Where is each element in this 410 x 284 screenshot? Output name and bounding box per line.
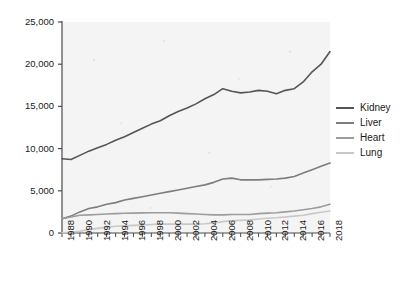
x-axis-tick-label: 2016: [316, 220, 326, 241]
legend-label: Kidney: [360, 103, 391, 113]
x-axis-tick-label: 2010: [263, 220, 273, 241]
legend-swatch-liver: [336, 122, 354, 124]
x-axis-tick-label: 1996: [137, 220, 147, 241]
x-axis-tick-label: 2000: [173, 220, 183, 241]
legend-label: Heart: [360, 133, 384, 143]
x-axis-tick-label: 2002: [191, 220, 201, 241]
legend-swatch-heart: [336, 137, 354, 139]
x-axis-tick-label: 1990: [84, 220, 94, 241]
legend-item-liver[interactable]: Liver: [336, 115, 391, 130]
y-axis-tick-label: 20,000: [2, 59, 54, 69]
legend-item-heart[interactable]: Heart: [336, 130, 391, 145]
legend-item-kidney[interactable]: Kidney: [336, 100, 391, 115]
y-axis-tick-label: 25,000: [2, 17, 54, 27]
legend-item-lung[interactable]: Lung: [336, 145, 391, 160]
legend-swatch-kidney: [336, 107, 354, 109]
line-chart: 05,00010,00015,00020,00025,000 198819901…: [0, 0, 410, 284]
x-axis-tick-label: 2012: [280, 220, 290, 241]
chart-legend: KidneyLiverHeartLung: [336, 100, 391, 160]
y-axis-tick-label: 0: [2, 228, 54, 238]
x-axis-tick-label: 2014: [298, 220, 308, 241]
y-axis-tick-label: 15,000: [2, 101, 54, 111]
x-axis-tick-label: 2006: [227, 220, 237, 241]
legend-swatch-lung: [336, 152, 354, 154]
x-axis-tick-label: 2018: [334, 220, 344, 241]
axes: [58, 21, 330, 237]
series-line-kidney: [62, 52, 330, 160]
series-line-liver: [62, 163, 330, 219]
x-axis-tick-label: 2004: [209, 220, 219, 241]
legend-label: Lung: [360, 148, 382, 158]
series-lines: [62, 52, 330, 233]
y-axis-tick-label: 10,000: [2, 144, 54, 154]
x-axis-tick-label: 1998: [155, 220, 165, 241]
x-axis-tick-label: 1994: [120, 220, 130, 241]
x-axis-tick-label: 1992: [102, 220, 112, 241]
legend-label: Liver: [360, 118, 382, 128]
x-axis-tick-label: 2008: [245, 220, 255, 241]
x-axis-tick-label: 1988: [66, 220, 76, 241]
y-axis-tick-label: 5,000: [2, 186, 54, 196]
